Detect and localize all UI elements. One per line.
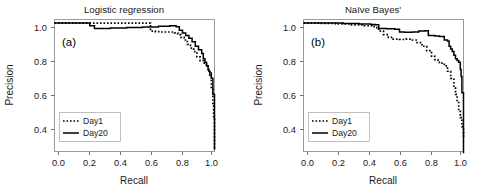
panel-a-ytick-1: 1.0 [34,23,47,33]
panel-b-x-ticks [308,152,461,156]
panel-a-legend-label-day1: Day1 [83,116,103,126]
panel-logistic-regression: Logistic regression 1.0 0.8 0.6 0.4 [0,0,248,194]
panel-a-tag: (a) [62,36,76,48]
panel-a-x-ticks [59,152,212,156]
panel-a-xtick-5: 0.8 [176,158,189,168]
panel-a-xtick-1: 0.0 [52,158,65,168]
panel-a-ylabel: Precision [4,64,15,105]
panel-b-ytick-3: 0.6 [283,91,296,101]
panel-b-legend-label-day1: Day1 [332,116,352,126]
panel-a-svg: Logistic regression 1.0 0.8 0.6 0.4 [0,0,248,194]
panel-b-legend[interactable]: Day1 Day20 [309,113,370,142]
panel-b-xtick-5: 0.8 [425,158,438,168]
panel-b-ytick-2: 0.8 [283,57,296,67]
panel-b-xtick-6: 1.0 [454,158,467,168]
panel-a-xlabel: Recall [120,175,148,186]
panel-a-y-ticks [51,28,55,130]
panel-a-ytick-4: 0.4 [34,125,47,135]
panel-b-xtick-4: 0.6 [394,158,407,168]
panel-b-svg: Naïve Bayes' 1.0 0.8 0.6 0.4 0.0 0.2 [249,0,497,194]
panel-a-xtick-3: 0.4 [114,158,127,168]
figure-precision-recall-panels: Logistic regression 1.0 0.8 0.6 0.4 [0,0,497,194]
panel-b-title: Naïve Bayes' [345,4,401,15]
panel-b-tag: (b) [311,36,325,48]
panel-a-xtick-6: 1.0 [205,158,218,168]
panel-b-ytick-1: 1.0 [283,23,296,33]
panel-naive-bayes: Naïve Bayes' 1.0 0.8 0.6 0.4 0.0 0.2 [249,0,497,194]
panel-b-xtick-2: 0.2 [332,158,345,168]
panel-a-xtick-4: 0.6 [145,158,158,168]
panel-a-ytick-3: 0.6 [34,91,47,101]
panel-b-ylabel: Precision [253,64,264,105]
panel-a-legend-label-day20: Day20 [83,128,108,138]
panel-b-legend-label-day20: Day20 [332,128,357,138]
panel-a-legend[interactable]: Day1 Day20 [60,113,121,142]
panel-b-xlabel: Recall [369,175,397,186]
panel-b-y-ticks [300,28,304,130]
panel-a-title: Logistic regression [84,4,164,15]
panel-b-ytick-4: 0.4 [283,125,296,135]
panel-b-xtick-1: 0.0 [301,158,314,168]
panel-a-xtick-2: 0.2 [83,158,96,168]
panel-a-ytick-2: 0.8 [34,57,47,67]
panel-b-xtick-3: 0.4 [363,158,376,168]
